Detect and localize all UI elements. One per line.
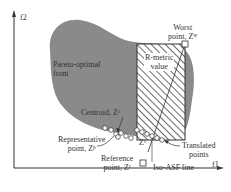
worst-point-label: Worst point, Zw xyxy=(168,23,197,41)
y-axis-label: f2 xyxy=(20,13,27,22)
translated-points-label: Translated points xyxy=(182,141,215,159)
reference-point-label: Reference point, Zr xyxy=(101,154,133,172)
r-metric-diagram: f2 f1 Pareto-optimal front R-metric valu… xyxy=(0,0,231,192)
worst-point-marker xyxy=(182,41,188,47)
pareto-front-label: Pareto-optimal front xyxy=(53,60,101,78)
r-metric-label: R-metric value xyxy=(144,53,174,71)
iso-asf-label: Iso-ASF line xyxy=(153,163,194,172)
representative-point-label: Representative point, Zp xyxy=(58,135,106,153)
centroid-label: Centroid, Zc xyxy=(81,108,120,117)
reference-point-marker xyxy=(140,160,146,166)
x-axis-label: f1 xyxy=(212,160,219,169)
translated-z-label: Zt xyxy=(139,138,145,147)
